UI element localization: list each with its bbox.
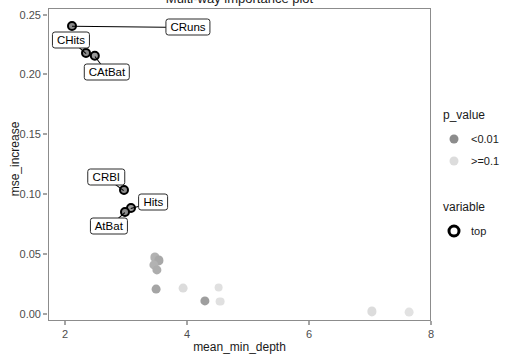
legend-label: <0.01	[471, 133, 499, 145]
data-point	[404, 308, 413, 317]
legend-label: >=0.1	[471, 155, 499, 167]
data-point	[152, 285, 161, 294]
x-tick-mark	[65, 321, 66, 325]
data-point	[368, 307, 377, 316]
legend: p_value<0.01>=0.1variabletop	[443, 8, 519, 321]
chart-root: Multi-way importance plot 0.000.050.100.…	[0, 0, 519, 356]
x-tick-label: 2	[62, 328, 68, 340]
filled-circle-icon	[450, 135, 459, 144]
x-tick-mark	[309, 321, 310, 325]
data-point	[201, 296, 210, 305]
y-axis-title: mse_increase	[8, 99, 22, 219]
legend-title-p-value: p_value	[443, 108, 485, 122]
x-tick-mark	[431, 321, 432, 325]
x-tick-label: 4	[184, 328, 190, 340]
x-tick-mark	[187, 321, 188, 325]
point-label-chits: CHits	[52, 31, 90, 48]
point-label-hits: Hits	[138, 194, 168, 211]
legend-key[interactable]	[445, 222, 463, 240]
legend-label: top	[471, 225, 486, 237]
legend-title-variable: variable	[443, 200, 485, 214]
data-point	[214, 283, 223, 292]
data-point	[215, 297, 224, 306]
point-label-atbat: AtBat	[90, 218, 128, 235]
ring-circle-icon	[448, 225, 461, 238]
plot-panel: CRunsCHitsCAtBatCRBIHitsAtBat	[48, 8, 431, 321]
x-axis-title: mean_min_depth	[48, 340, 431, 354]
point-label-cruns: CRuns	[165, 18, 210, 35]
legend-key[interactable]	[445, 152, 463, 170]
point-label-crbi: CRBI	[88, 169, 125, 186]
filled-circle-icon	[450, 157, 459, 166]
x-tick-label: 8	[428, 328, 434, 340]
data-point	[179, 283, 188, 292]
point-label-catbat: CAtBat	[84, 63, 130, 80]
plot-area: CRunsCHitsCAtBatCRBIHitsAtBat	[49, 9, 430, 320]
x-tick-label: 6	[306, 328, 312, 340]
data-point	[152, 265, 161, 274]
legend-key[interactable]	[445, 130, 463, 148]
